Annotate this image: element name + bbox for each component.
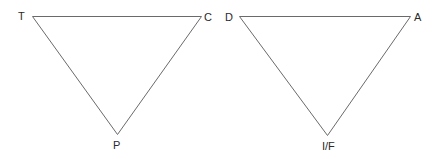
vertex-label-d: D — [225, 12, 233, 23]
vertex-label-c: C — [204, 12, 212, 23]
vertex-label-p: P — [113, 140, 120, 151]
diagram-canvas — [0, 0, 441, 159]
left-triangle — [33, 17, 202, 135]
vertex-label-a: A — [414, 12, 421, 23]
vertex-label-t: T — [18, 11, 25, 22]
vertex-label-i-f: I/F — [322, 141, 335, 152]
right-triangle — [240, 17, 411, 136]
